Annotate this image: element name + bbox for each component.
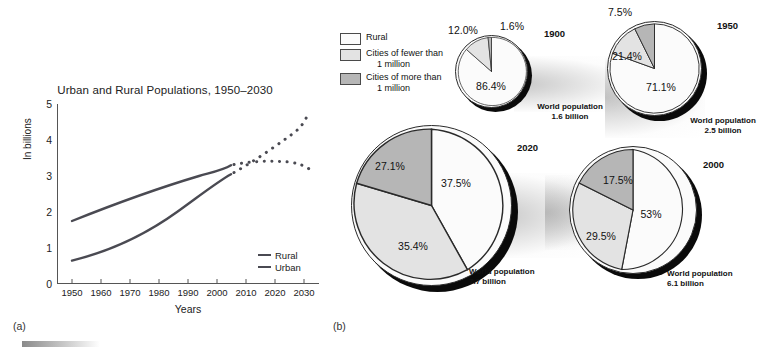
legend-item-small-cities: Cities of fewer than 1 million — [340, 48, 460, 69]
decorative-gradient-bar — [22, 341, 100, 347]
pie-caption-1950-line1: World population — [690, 116, 756, 125]
pie-slices-1900 — [456, 36, 527, 107]
urban-line-swatch-icon — [258, 266, 271, 268]
legend-item-large-cities: Cities of more than 1 million — [340, 72, 460, 93]
x-tick-2020: 2020 — [264, 288, 285, 298]
pie-label-rural-2000: 53% — [640, 208, 661, 220]
y-tick-4: 4 — [46, 135, 52, 146]
x-tick-2010: 2010 — [235, 288, 256, 298]
x-tick-1980: 1980 — [148, 288, 169, 298]
y-tick-5: 5 — [46, 99, 52, 110]
pie-year-1900: 1900 — [544, 28, 565, 39]
pie-body-2000 — [569, 146, 697, 274]
pie-label-large-cities-2000: 17.5% — [603, 174, 633, 186]
pie-year-2000: 2000 — [703, 159, 724, 170]
pie-chart-2020: 37.5% 35.4% 27.1% 2020 World population … — [338, 118, 558, 303]
large-cities-swatch-icon — [340, 73, 361, 85]
x-tick-1970: 1970 — [119, 288, 140, 298]
legend-label-urban: Urban — [275, 262, 301, 273]
pie-caption-2000: World population 6.1 billion — [667, 269, 767, 289]
rural-line-swatch-icon — [258, 254, 271, 256]
pie-year-2020: 2020 — [517, 142, 538, 153]
pie-label-small-cities-1950: 21.4% — [612, 50, 642, 62]
line-chart-legend: Rural Urban — [258, 249, 301, 273]
panel-a-line-chart: Urban and Rural Populations, 1950–2030 I… — [0, 0, 340, 350]
legend-item-urban: Urban — [258, 261, 301, 273]
legend-label-small-cities-line1: Cities of fewer than — [366, 48, 443, 58]
chart-title: Urban and Rural Populations, 1950–2030 — [0, 84, 330, 96]
pie-chart-2000: 53% 29.5% 17.5% 2000 World population 6.… — [545, 140, 760, 305]
x-axis-label: Years — [57, 303, 319, 315]
legend-label-small-cities: Cities of fewer than 1 million — [366, 48, 443, 69]
pie-slices-2000 — [570, 147, 696, 273]
pie-body-1950 — [607, 21, 702, 116]
legend-label-large-cities-line2: 1 million — [366, 83, 442, 94]
legend-item-rural: Rural — [258, 249, 301, 261]
panel-b-pie-charts: Rural Cities of fewer than 1 million Cit… — [330, 0, 769, 350]
y-tick-3: 3 — [46, 171, 52, 182]
rural-swatch-icon — [340, 33, 361, 45]
x-tick-1950: 1950 — [61, 288, 82, 298]
pie-label-large-cities-1900: 1.6% — [500, 20, 524, 32]
panel-a-caption: (a) — [13, 320, 26, 332]
legend-label-rural: Rural — [366, 32, 388, 43]
y-tick-0: 0 — [46, 279, 52, 290]
x-tick-2030: 2030 — [293, 288, 314, 298]
pie-caption-1900-line1: World population — [537, 102, 603, 111]
urban-solid-line — [72, 174, 231, 260]
pie-label-rural-1950: 71.1% — [646, 81, 676, 93]
pie-year-1950: 1950 — [717, 20, 738, 31]
x-tick-1990: 1990 — [177, 288, 198, 298]
legend-label-rural: Rural — [275, 250, 298, 261]
pie-legend: Rural Cities of fewer than 1 million Cit… — [340, 32, 460, 96]
y-tick-1: 1 — [46, 243, 52, 254]
pie-caption-2020-line1: World population — [469, 267, 535, 276]
pie-body-1900 — [455, 35, 528, 108]
pie-label-small-cities-2020: 35.4% — [398, 240, 428, 252]
pie-label-small-cities-2000: 29.5% — [586, 230, 616, 242]
pie-caption-1950-line2: 2.5 billion — [705, 126, 742, 135]
small-cities-swatch-icon — [340, 49, 361, 61]
pie-chart-1950: 7.5% 21.4% 71.1% 1950 World population 2… — [595, 8, 769, 143]
pie-label-small-cities-1900: 12.0% — [448, 24, 478, 36]
pie-label-rural-1900: 86.4% — [476, 80, 506, 92]
pie-slices-1950 — [608, 22, 701, 115]
pie-body-2020 — [351, 125, 512, 286]
urban-dotted-line — [234, 111, 309, 172]
pie-caption-2020-line2: 7.7 billion — [469, 277, 506, 286]
pie-caption-1950: World population 2.5 billion — [673, 116, 769, 136]
legend-item-rural: Rural — [340, 32, 460, 45]
x-tick-2000: 2000 — [206, 288, 227, 298]
panel-b-caption: (b) — [333, 320, 346, 332]
x-tick-1960: 1960 — [90, 288, 111, 298]
y-tick-2: 2 — [46, 207, 52, 218]
y-axis-label: In billions — [22, 118, 33, 160]
legend-label-large-cities-line1: Cities of more than — [366, 72, 442, 82]
pie-label-rural-2020: 37.5% — [441, 177, 471, 189]
pie-caption-2000-line1: World population — [667, 269, 733, 278]
rural-solid-line — [72, 165, 231, 221]
pie-caption-2000-line2: 6.1 billion — [667, 279, 704, 288]
rural-dotted-line — [234, 161, 309, 169]
legend-label-large-cities: Cities of more than 1 million — [366, 72, 442, 93]
pie-label-large-cities-2020: 27.1% — [375, 160, 405, 172]
pie-label-large-cities-1950: 7.5% — [608, 6, 632, 18]
pie-slices-2020 — [352, 126, 511, 285]
legend-label-small-cities-line2: 1 million — [366, 59, 443, 70]
